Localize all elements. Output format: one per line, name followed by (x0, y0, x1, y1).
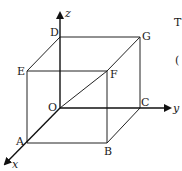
vertex-label-G: G (142, 30, 151, 43)
y-axis-label: y (172, 102, 180, 115)
vertex-label-C: C (141, 96, 149, 109)
cube-edges (27, 37, 140, 143)
z-axis-label: z (64, 7, 71, 20)
vertex-label-E: E (17, 65, 25, 78)
vertex-label-F: F (110, 68, 118, 81)
x-axis (5, 108, 60, 164)
diagonal-OF (60, 71, 107, 108)
cube-diagram: z y x D G E F O C A B T ( (0, 0, 182, 171)
cropped-text-line2: ( (175, 54, 179, 67)
vertex-label-A: A (15, 135, 25, 148)
x-axis-label: x (12, 158, 19, 171)
edge-BC (107, 108, 140, 143)
edge-FG (107, 37, 140, 71)
cropped-text-line1: T (174, 16, 182, 29)
edge-DE (27, 37, 60, 71)
vertex-label-B: B (104, 145, 112, 158)
vertex-label-D: D (50, 26, 59, 39)
vertex-label-O: O (48, 101, 57, 114)
